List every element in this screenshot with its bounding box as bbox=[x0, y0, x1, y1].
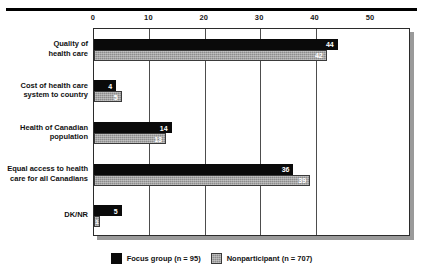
x-tick-label-20: 20 bbox=[199, 13, 208, 22]
category-label-3: Equal access to health care for all Cana… bbox=[0, 164, 88, 183]
x-tick-label-50: 50 bbox=[366, 13, 375, 22]
bar-nonparticipant-1: 5 bbox=[94, 91, 122, 102]
plot-area: 4442451413363951 bbox=[93, 28, 410, 236]
bar-value-label: 13 bbox=[154, 135, 162, 142]
bar-value-label: 5 bbox=[114, 207, 118, 214]
legend-label: Nonparticipant (n = 707) bbox=[227, 254, 313, 263]
category-label-4: DK/NR bbox=[0, 210, 88, 220]
bar-nonparticipant-2: 13 bbox=[94, 133, 166, 144]
bar-value-label: 42 bbox=[315, 52, 323, 59]
legend-item-1[interactable]: Nonparticipant (n = 707) bbox=[211, 253, 313, 264]
bar-value-label: 44 bbox=[326, 41, 334, 48]
bar-focus-group-2: 14 bbox=[94, 122, 172, 133]
top-rule-divider bbox=[6, 8, 417, 11]
legend-item-0[interactable]: Focus group (n = 95) bbox=[111, 253, 201, 264]
category-label-0: Quality of health care bbox=[0, 39, 88, 58]
bar-nonparticipant-4: 1 bbox=[94, 216, 100, 227]
legend-swatch-focus bbox=[111, 253, 122, 264]
chart-legend: Focus group (n = 95)Nonparticipant (n = … bbox=[0, 253, 423, 264]
category-label-1: Cost of health care system to country bbox=[0, 81, 88, 100]
legend-label: Focus group (n = 95) bbox=[127, 254, 201, 263]
bar-value-label: 5 bbox=[114, 93, 118, 100]
bar-focus-group-1: 4 bbox=[94, 80, 116, 91]
bar-value-label: 14 bbox=[160, 124, 168, 131]
legend-swatch-nonp bbox=[211, 253, 222, 264]
x-tick-label-0: 0 bbox=[91, 13, 95, 22]
chart-figure: 01020304050 4442451413363951 Quality of … bbox=[0, 0, 423, 275]
x-tick-label-40: 40 bbox=[310, 13, 319, 22]
bar-nonparticipant-3: 39 bbox=[94, 175, 310, 186]
bar-focus-group-4: 5 bbox=[94, 205, 122, 216]
bar-value-label: 39 bbox=[298, 177, 306, 184]
bar-value-label: 4 bbox=[108, 82, 112, 89]
x-axis-tick-labels: 01020304050 bbox=[0, 13, 423, 26]
bar-focus-group-0: 44 bbox=[94, 39, 338, 50]
category-label-2: Health of Canadian population bbox=[0, 123, 88, 142]
bar-value-label: 1 bbox=[95, 219, 98, 225]
bar-focus-group-3: 36 bbox=[94, 164, 293, 175]
x-tick-label-10: 10 bbox=[144, 13, 153, 22]
bar-value-label: 36 bbox=[282, 166, 290, 173]
bar-nonparticipant-0: 42 bbox=[94, 50, 327, 61]
x-tick-label-30: 30 bbox=[255, 13, 264, 22]
